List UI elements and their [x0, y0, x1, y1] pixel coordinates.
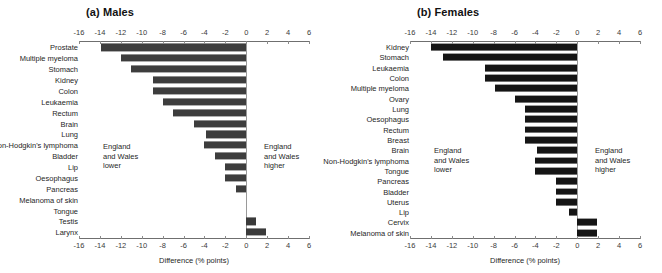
x-tick-mark: [184, 236, 185, 239]
bar-rows: ProstateMultiple myelomaStomachKidneyCol…: [0, 42, 331, 238]
x-tick-mark: [267, 41, 268, 44]
category-label: Oesophagus: [366, 115, 409, 124]
x-tick-labels-bottom: -16-14-12-10-8-6-4-20246: [410, 241, 640, 253]
x-tick-label: 6: [307, 241, 311, 250]
x-tick-mark: [288, 41, 289, 44]
x-tick-mark: [309, 41, 310, 44]
x-tick-label: -4: [532, 241, 539, 250]
x-tick-label: -8: [490, 28, 497, 37]
bar-row: Colon: [331, 73, 662, 83]
annotation-line: lower: [434, 165, 469, 175]
x-tick-label: -16: [74, 241, 85, 250]
x-tick-mark: [309, 236, 310, 239]
bar-row: Larynx: [0, 227, 331, 238]
x-tick-mark: [246, 41, 247, 44]
category-label: Prostate: [50, 43, 78, 52]
bar-row: Tongue: [0, 205, 331, 216]
annotation-line: and Wales: [595, 156, 630, 166]
category-label: Lung: [392, 105, 409, 114]
x-tick-mark: [473, 236, 474, 239]
bar: [443, 54, 577, 61]
x-tick-label: -2: [222, 241, 229, 250]
x-tick-label: -10: [136, 241, 147, 250]
annotation-line: England: [434, 146, 469, 156]
x-tick-label: -4: [201, 241, 208, 250]
category-label: Brain: [391, 146, 409, 155]
x-tick-label: 4: [617, 28, 621, 37]
category-label: Testis: [59, 217, 78, 226]
category-label: Colon: [389, 74, 409, 83]
x-tick-label: -16: [405, 241, 416, 250]
x-tick-mark: [225, 236, 226, 239]
x-tick-label: 0: [575, 28, 579, 37]
x-tick-label: 0: [244, 28, 248, 37]
bar-row: Leukaemia: [331, 63, 662, 73]
x-tick-label: -16: [405, 28, 416, 37]
x-tick-mark: [431, 41, 432, 44]
x-tick-label: -4: [532, 28, 539, 37]
category-label: Leukaemia: [41, 97, 78, 106]
x-tick-labels-top: -16-14-12-10-8-6-4-20246: [410, 28, 640, 40]
category-label: Ovary: [389, 94, 409, 103]
bar-row: Cervix: [331, 217, 662, 227]
bar: [236, 185, 246, 192]
axis-line-bottom: [79, 238, 309, 239]
annotation-lower: Englandand Waleslower: [103, 142, 138, 171]
bar: [163, 98, 247, 105]
bar: [556, 198, 577, 205]
bar-row: Lung: [0, 129, 331, 140]
x-tick-mark: [410, 41, 411, 44]
category-label: Breast: [387, 135, 409, 144]
x-tick-mark: [494, 236, 495, 239]
bar-row: Stomach: [331, 52, 662, 62]
bar: [246, 218, 255, 225]
figure-root: (a) Males -16-14-12-10-8-6-4-20246 -16-1…: [0, 0, 662, 273]
x-tick-label: 4: [617, 241, 621, 250]
x-tick-mark: [410, 236, 411, 239]
x-tick-mark: [121, 236, 122, 239]
x-tick-label: -10: [136, 28, 147, 37]
bar: [173, 109, 246, 116]
x-tick-label: 2: [596, 241, 600, 250]
category-label: Non-Hodgkin's lymphoma: [323, 156, 409, 165]
category-label: Tongue: [384, 166, 409, 175]
bar-row: Uterus: [331, 197, 662, 207]
bar-row: Melanoma of skin: [331, 228, 662, 238]
bar-row: Oesophagus: [331, 114, 662, 124]
annotation-line: England: [595, 146, 630, 156]
bar-row: Oesophagus: [0, 173, 331, 184]
x-tick-mark: [452, 41, 453, 44]
bar: [535, 168, 577, 175]
bar: [194, 120, 246, 127]
x-tick-label: -2: [553, 241, 560, 250]
category-label: Rectum: [383, 125, 409, 134]
category-label: Leukaemia: [372, 63, 409, 72]
x-tick-mark: [121, 41, 122, 44]
x-tick-labels-bottom: -16-14-12-10-8-6-4-20246: [79, 241, 309, 253]
x-tick-mark: [515, 236, 516, 239]
x-tick-mark: [556, 41, 557, 44]
bar-row: Prostate: [0, 42, 331, 53]
x-tick-label: -8: [490, 241, 497, 250]
annotation-line: higher: [264, 161, 299, 171]
annotation-line: lower: [103, 161, 138, 171]
panel-title-males: (a) Males: [86, 6, 134, 18]
bar: [537, 147, 578, 154]
x-tick-label: 6: [638, 241, 642, 250]
x-tick-mark: [184, 41, 185, 44]
category-label: Bladder: [52, 152, 78, 161]
bar: [101, 44, 246, 51]
x-tick-mark: [640, 236, 641, 239]
axis-line-bottom: [410, 238, 640, 239]
bar-rows: KidneyStomachLeukaemiaColonMultiple myel…: [331, 42, 662, 238]
bar-row: Melanoma of skin: [0, 194, 331, 205]
category-label: Pancreas: [46, 184, 78, 193]
bar: [225, 174, 246, 181]
x-tick-label: -14: [94, 28, 105, 37]
bar: [204, 142, 246, 149]
x-tick-label: -14: [425, 241, 436, 250]
x-tick-label: 2: [265, 28, 269, 37]
bar: [525, 126, 577, 133]
x-tick-mark: [142, 236, 143, 239]
annotation-line: and Wales: [264, 152, 299, 162]
